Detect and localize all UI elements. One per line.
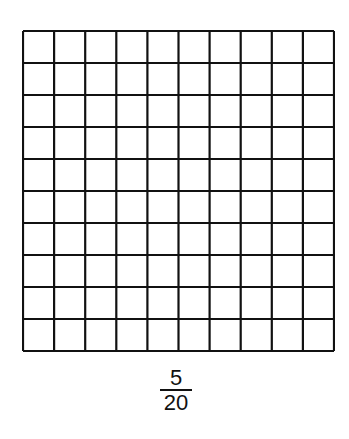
hundred-grid	[22, 30, 335, 352]
fraction-denominator: 20	[150, 392, 202, 414]
fraction-label: 5 20	[150, 368, 202, 414]
fraction-numerator: 5	[150, 368, 202, 388]
